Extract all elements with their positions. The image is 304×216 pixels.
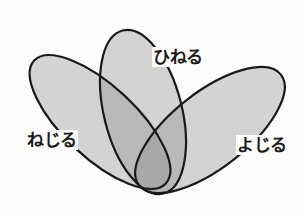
label-yojiru: よじる [236,135,288,155]
label-nejiru: ねじる [26,130,78,150]
venn-diagram [0,0,304,216]
label-hineru: ひねる [152,47,204,67]
